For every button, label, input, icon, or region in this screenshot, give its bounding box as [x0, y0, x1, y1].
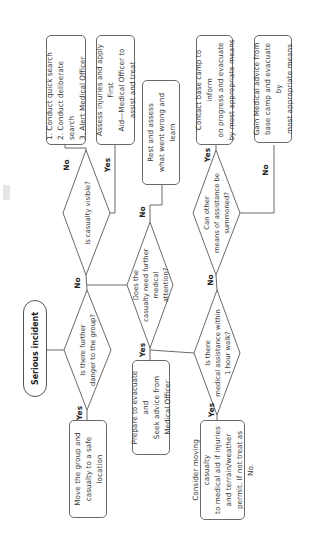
decision-other-means: Can other means of assistance be summone… [195, 168, 238, 258]
action-contact-base: Contact base camp to inform on progress … [196, 35, 233, 145]
edge-label-no: No [138, 206, 147, 217]
action-gain-advice: Gain Medical advice from base camp and e… [254, 35, 292, 143]
action-rest-assess: Rest and assess what went wrong and lear… [142, 80, 180, 185]
edge-label-yes: Yes [138, 343, 147, 357]
edge-label-no: No [73, 277, 82, 288]
edge-label-yes: Yes [207, 403, 216, 417]
edge-label-no: No [261, 164, 270, 175]
decision-casualty-visible: Is casualty visible? [66, 173, 109, 253]
action-consider-moving: Consider moving casualty to medical aid … [200, 420, 245, 520]
decision-need-medical: Does the casualty need further medical a… [129, 240, 172, 330]
action-search: 1. Conduct quick search 2. Conduct delib… [46, 35, 86, 145]
start-serious-incident: Serious incident [23, 300, 47, 397]
edge-label-no: No [62, 159, 71, 170]
flowchart-canvas: Serious incident Is there further danger… [0, 0, 309, 536]
decision-further-danger: Is there further danger to the group? [66, 310, 109, 390]
edge-label-yes: Yes [203, 148, 212, 162]
action-assess-injuries: Assess injuries and apply First Aid—Medi… [96, 35, 135, 145]
edge-label-yes: Yes [75, 406, 84, 420]
edge-label-yes: Yes [103, 158, 112, 172]
action-prepare-evacuate: Prepare to evacuate and Seek advice from… [132, 360, 170, 455]
edge-label-no: No [206, 274, 215, 285]
action-move-group: Move the group and casualty to a safe lo… [69, 420, 107, 518]
decision-medical-hour: Is there medical assistance within 1 hou… [196, 308, 239, 398]
